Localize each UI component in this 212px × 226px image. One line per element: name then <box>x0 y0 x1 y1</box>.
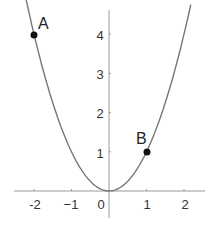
x-tick-label-2: 2 <box>181 198 188 211</box>
function-plot: -2 −1 0 1 2 1 2 3 4 A B <box>0 0 212 226</box>
y-tick-label-3: 3 <box>96 68 103 81</box>
parabola-curve <box>25 0 191 191</box>
x-tick-label-1: 1 <box>143 198 150 211</box>
point-a[interactable] <box>31 32 38 39</box>
y-tick-label-4: 4 <box>96 29 103 42</box>
point-b[interactable] <box>144 149 151 156</box>
point-a-label: A <box>38 16 49 32</box>
plot-canvas <box>0 0 212 226</box>
y-tick-label-2: 2 <box>96 107 103 120</box>
x-tick-label-neg2: -2 <box>29 198 41 211</box>
y-tick-label-1: 1 <box>96 147 103 160</box>
x-tick-label-0: 0 <box>97 198 104 211</box>
point-b-label: B <box>136 131 147 147</box>
x-tick-label-neg1: −1 <box>64 198 79 211</box>
